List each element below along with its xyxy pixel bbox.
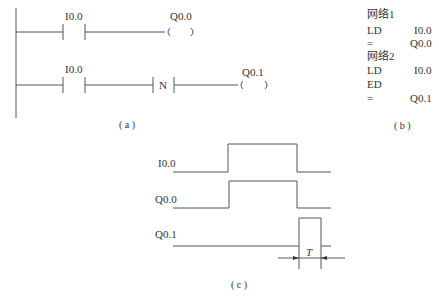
- stl-arg: Q0.1: [410, 92, 432, 105]
- waveform-q01: [173, 218, 331, 246]
- stl-network-1: 网络1: [367, 8, 395, 21]
- stl-network-2: 网络2: [367, 50, 395, 63]
- stl-op: ED: [367, 78, 382, 91]
- timing-diagram: I0.0 Q0.0 Q0.1 T ( c ): [155, 144, 345, 291]
- caption-c: ( c ): [231, 279, 247, 291]
- coil-left: [168, 28, 170, 36]
- stl-op: =: [367, 92, 373, 105]
- rung-1: I0.0 Q0.0: [16, 10, 193, 40]
- coil-right: [265, 81, 267, 89]
- waveform-i00: [173, 144, 331, 172]
- rung2-coil-label: Q0.1: [242, 66, 264, 78]
- stl-op: LD: [367, 24, 382, 37]
- caption-a: ( a ): [119, 119, 135, 131]
- arrow-left-icon: [321, 256, 327, 260]
- rung1-contact-label: I0.0: [65, 10, 83, 22]
- stl-op: =: [367, 37, 373, 50]
- waveform-q00: [173, 181, 331, 208]
- stl-op: LD: [367, 64, 382, 77]
- coil-left: [241, 81, 243, 89]
- signal-label-i00: I0.0: [158, 157, 176, 169]
- stl-arg: I0.0: [414, 24, 431, 37]
- coil-right: [191, 28, 193, 36]
- stl-arg: I0.0: [414, 64, 431, 77]
- ladder-diagram: I0.0 Q0.0 I0.0 N Q0.1 ( a ): [16, 8, 267, 131]
- pulse-width-label: T: [306, 246, 313, 258]
- rung2-contact-label: I0.0: [65, 63, 83, 75]
- signal-label-q01: Q0.1: [155, 228, 177, 240]
- signal-label-q00: Q0.0: [155, 193, 177, 205]
- stl-arg: Q0.0: [410, 37, 432, 50]
- arrow-right-icon: [293, 256, 299, 260]
- caption-b: ( b ): [394, 119, 411, 132]
- rung1-coil-label: Q0.0: [170, 10, 192, 22]
- negative-edge-label: N: [159, 79, 167, 91]
- rung-2: I0.0 N Q0.1: [16, 63, 267, 93]
